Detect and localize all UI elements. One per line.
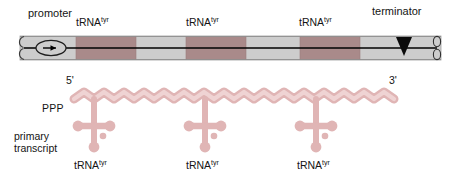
ppp-label: PPP — [42, 103, 64, 114]
trna-label-1-sup: tyr — [211, 159, 219, 166]
three-prime-label: 3' — [389, 75, 397, 86]
gene-label-0: tRNAtyr — [76, 17, 109, 28]
terminator-label: terminator — [372, 6, 422, 17]
gene-label-1-text: tRNA — [186, 16, 211, 28]
gene-label-2-text: tRNA — [299, 16, 324, 28]
trna-label-0: tRNAtyr — [74, 160, 107, 171]
gene-label-1-sup: tyr — [211, 16, 219, 23]
gene-label-2: tRNAtyr — [299, 17, 332, 28]
trna-label-1-text: tRNA — [186, 159, 211, 171]
dna-duplex — [19, 36, 441, 60]
trna-label-1: tRNAtyr — [186, 160, 219, 171]
primary-transcript-label-line1: primary — [14, 130, 49, 142]
diagram-canvas — [0, 0, 463, 176]
gene-label-2-sup: tyr — [324, 16, 332, 23]
gene-label-0-sup: tyr — [101, 16, 109, 23]
trna-label-0-text: tRNA — [74, 159, 99, 171]
trna-transcription-diagram: promoter terminator tRNAtyr tRNAtyr tRNA… — [0, 0, 463, 176]
trna-label-2-text: tRNA — [297, 159, 322, 171]
promoter-oval-arrow-icon — [36, 40, 66, 55]
trna-label-2-sup: tyr — [322, 159, 330, 166]
trna-cloverleaf-icon-0 — [73, 99, 116, 152]
promoter-label: promoter — [28, 8, 72, 19]
trna-cloverleaf-icon-1 — [184, 99, 227, 152]
primary-transcript-label-line2: transcript — [14, 142, 57, 154]
trna-label-2: tRNAtyr — [297, 160, 330, 171]
primary-transcript-label: primarytranscript — [14, 130, 57, 154]
five-prime-label: 5' — [66, 75, 74, 86]
primary-transcript-strand — [74, 92, 394, 99]
trna-cloverleaf-icon-2 — [295, 99, 338, 152]
gene-label-1: tRNAtyr — [186, 17, 219, 28]
gene-label-0-text: tRNA — [76, 16, 101, 28]
trna-label-0-sup: tyr — [99, 159, 107, 166]
